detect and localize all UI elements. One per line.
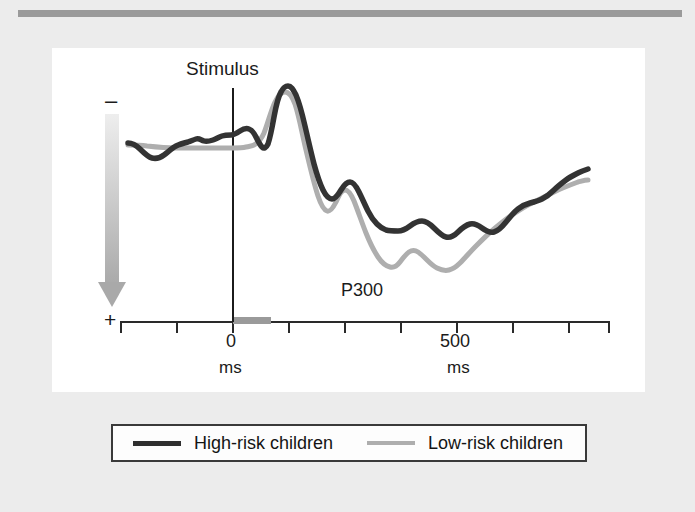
legend-label-high-risk: High-risk children (194, 433, 333, 454)
x-tick-label-0: 0 (226, 331, 236, 352)
legend-swatch-high-risk-line (133, 441, 181, 446)
x-tick-unit-500: ms (447, 358, 470, 378)
legend-label-low-risk: Low-risk children (428, 433, 563, 454)
stimulus-label: Stimulus (186, 58, 259, 80)
polarity-negative-label: – (105, 88, 117, 114)
x-tick-label-500: 500 (440, 331, 470, 352)
legend-swatch-low-risk-line (367, 441, 415, 445)
stimulus-duration-bar (233, 317, 271, 324)
legend-item-low-risk: Low-risk children (367, 433, 563, 454)
series-low-risk-children (128, 92, 588, 270)
figure-root: Stimulus – + P300 0 ms 500 ms High-risk … (0, 0, 695, 512)
x-axis-ticks (121, 322, 609, 333)
legend-item-high-risk: High-risk children (133, 433, 333, 454)
polarity-direction-arrow (98, 114, 126, 307)
chart-legend: High-risk children Low-risk children (111, 424, 587, 462)
p300-component-label: P300 (341, 280, 383, 301)
x-tick-unit-0: ms (219, 358, 242, 378)
polarity-positive-label: + (104, 308, 116, 332)
